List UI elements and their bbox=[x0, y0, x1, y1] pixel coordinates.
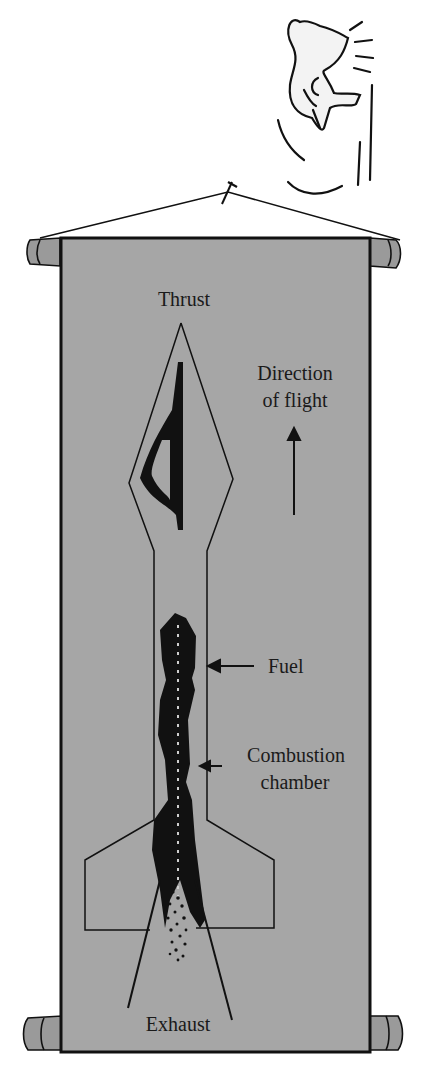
label-combustion-line1: Combustion bbox=[247, 744, 345, 766]
label-combustion-line2: chamber bbox=[261, 771, 330, 793]
label-thrust: Thrust bbox=[158, 288, 211, 310]
label-direction-line1: Direction bbox=[257, 362, 333, 384]
label-direction-line2: of flight bbox=[263, 389, 328, 412]
label-exhaust: Exhaust bbox=[146, 1013, 211, 1035]
label-fuel: Fuel bbox=[268, 655, 304, 677]
rocket-diagram: Thrust Direction of flight Fuel Combusti… bbox=[0, 0, 426, 1081]
cartoon-face-icon bbox=[278, 20, 373, 193]
hanging-string bbox=[40, 182, 400, 240]
